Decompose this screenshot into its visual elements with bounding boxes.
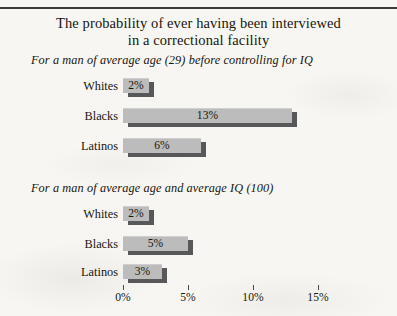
bar: [123, 108, 297, 123]
top-rule-divider: [0, 7, 397, 9]
bar-shadow-bottom: [128, 251, 193, 255]
axis-tick-label: 15%: [298, 291, 338, 304]
category-label: Whites: [18, 79, 118, 93]
bar-shadow-side: [149, 210, 154, 225]
bar: [123, 264, 167, 279]
axis-tick-label: 10%: [233, 291, 273, 304]
bar-face: [123, 78, 149, 93]
bar-shadow-side: [162, 268, 167, 283]
category-label: Blacks: [18, 109, 118, 123]
bar-shadow-bottom: [128, 153, 206, 157]
chart-title-line-2: in a correctional facility: [0, 32, 397, 49]
bar-face: [123, 264, 162, 279]
bar-shadow-side: [188, 240, 193, 255]
bar-shadow-side: [292, 112, 297, 127]
bar: [123, 78, 154, 93]
axis-tick-mark: [318, 285, 319, 290]
panel-2-subtitle: For a man of average age and average IQ …: [31, 181, 274, 196]
bar-shadow-bottom: [128, 123, 297, 127]
chart-title: The probability of ever having been inte…: [0, 15, 397, 49]
axis-tick-label: 0%: [103, 291, 143, 304]
bar: [123, 206, 154, 221]
panel-1-subtitle: For a man of average age (29) before con…: [31, 53, 313, 68]
category-label: Latinos: [18, 265, 118, 279]
bar-shadow-side: [201, 142, 206, 157]
x-axis: 0%5%10%15%: [0, 285, 397, 311]
category-label: Blacks: [18, 237, 118, 251]
axis-tick-mark: [253, 285, 254, 290]
bar-face: [123, 138, 201, 153]
bar: [123, 138, 206, 153]
bar: [123, 236, 193, 251]
bar-shadow-side: [149, 82, 154, 97]
category-label: Latinos: [18, 139, 118, 153]
axis-tick-mark: [188, 285, 189, 290]
chart-figure: The probability of ever having been inte…: [0, 0, 397, 316]
bar-face: [123, 206, 149, 221]
chart-title-line-1: The probability of ever having been inte…: [0, 15, 397, 32]
axis-tick-label: 5%: [168, 291, 208, 304]
bar-face: [123, 108, 292, 123]
axis-tick-mark: [123, 285, 124, 290]
bar-face: [123, 236, 188, 251]
category-label: Whites: [18, 207, 118, 221]
